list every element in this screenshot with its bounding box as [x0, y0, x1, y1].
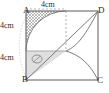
geometry-figure: A D B C 4cm 4cm 4cm	[0, 0, 109, 93]
vertex-label-d: D	[98, 6, 105, 15]
hatched-region	[26, 11, 66, 51]
dimension-label-left-upper: 4cm	[0, 22, 14, 30]
dimension-label-top: 4cm	[41, 1, 55, 9]
arc-to-c	[66, 51, 98, 80]
arc-from-d	[66, 11, 98, 51]
figure-canvas	[0, 0, 109, 93]
shaded-triangle	[26, 51, 66, 80]
vertex-label-a: A	[23, 6, 30, 15]
vertex-label-b: B	[22, 75, 28, 84]
vertex-label-c: C	[97, 76, 103, 85]
dimension-label-left-lower: 4cm	[0, 54, 14, 62]
outer-dashed-arc	[19, 17, 26, 76]
